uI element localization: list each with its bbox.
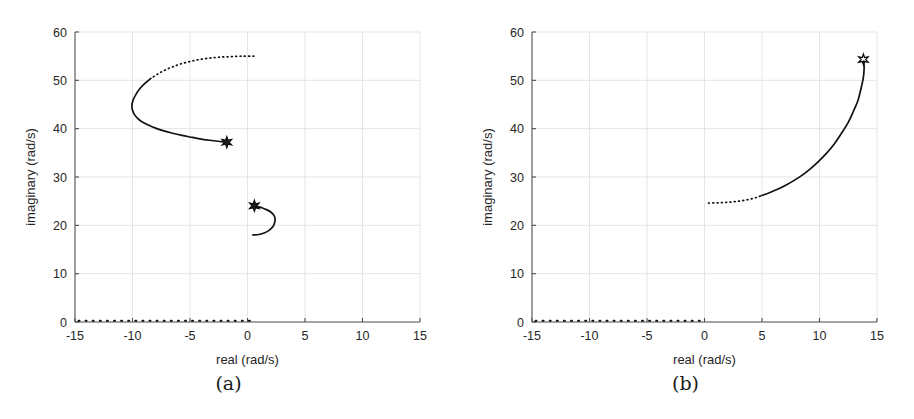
x-tick-label: 5 — [302, 329, 309, 343]
x-axis-title: real (rad/s) — [216, 352, 279, 367]
locus-branch — [151, 56, 254, 78]
plot-b-canvas: -15-10-50510150102030405060real (rad/s)i… — [457, 0, 914, 372]
locus-branch — [253, 206, 275, 235]
pole-markers-a — [222, 137, 259, 211]
x-tick-label: 15 — [870, 329, 884, 343]
x-tick-label: -10 — [123, 329, 141, 343]
grid-a — [75, 32, 420, 322]
y-tick-label: 0 — [60, 316, 67, 330]
x-tick-label: -15 — [66, 329, 84, 343]
x-tick-label: -5 — [184, 329, 195, 343]
panel-b: -15-10-50510150102030405060real (rad/s)i… — [457, 0, 914, 419]
x-tick-label: -5 — [641, 329, 652, 343]
tick-labels-b: -15-10-50510150102030405060 — [510, 26, 884, 344]
y-tick-label: 60 — [510, 26, 524, 40]
pole-marker-star-icon — [250, 200, 259, 211]
y-axis-title: imaginary (rad/s) — [480, 128, 495, 226]
y-tick-label: 40 — [53, 122, 67, 136]
y-axis-title: imaginary (rad/s) — [23, 128, 38, 226]
x-axis-title: real (rad/s) — [673, 352, 736, 367]
locus-branch — [132, 78, 226, 142]
x-tick-label: 5 — [759, 329, 766, 343]
pole-marker-star-icon — [859, 54, 868, 65]
y-tick-label: 10 — [510, 267, 524, 281]
locus-branches-b — [709, 61, 865, 203]
y-tick-label: 20 — [510, 219, 524, 233]
y-tick-label: 10 — [53, 267, 67, 281]
y-tick-label: 40 — [510, 122, 524, 136]
y-tick-label: 50 — [53, 74, 67, 88]
figure-root-locus-pair: -15-10-50510150102030405060real (rad/s)i… — [0, 0, 914, 419]
y-tick-label: 20 — [53, 219, 67, 233]
y-tick-label: 30 — [53, 171, 67, 185]
plot-a-canvas: -15-10-50510150102030405060real (rad/s)i… — [0, 0, 457, 372]
locus-branch — [709, 195, 762, 203]
x-tick-label: 15 — [413, 329, 427, 343]
panel-b-caption: (b) — [457, 372, 914, 394]
y-tick-label: 30 — [510, 171, 524, 185]
y-tick-label: 60 — [53, 26, 67, 40]
locus-branch — [762, 61, 864, 195]
x-tick-label: 10 — [813, 329, 827, 343]
x-tick-label: -10 — [580, 329, 598, 343]
panel-a: -15-10-50510150102030405060real (rad/s)i… — [0, 0, 457, 419]
x-tick-label: 10 — [356, 329, 370, 343]
x-tick-label: 0 — [701, 329, 708, 343]
grid-b — [532, 32, 877, 322]
x-tick-label: 0 — [244, 329, 251, 343]
y-tick-label: 50 — [510, 74, 524, 88]
x-tick-label: -15 — [523, 329, 541, 343]
pole-markers-b — [859, 54, 868, 65]
tick-labels-a: -15-10-50510150102030405060 — [53, 26, 427, 344]
y-tick-label: 0 — [517, 316, 524, 330]
panel-a-caption: (a) — [0, 372, 457, 394]
